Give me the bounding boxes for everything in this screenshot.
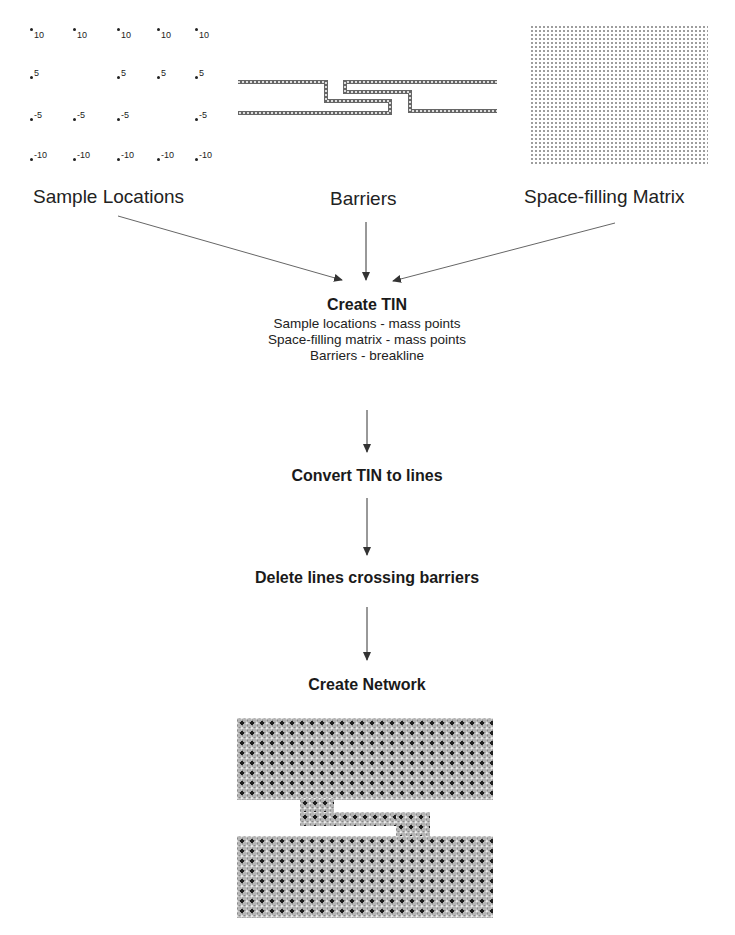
step-detail: Barriers - breakline [217, 348, 517, 364]
arrow-sample-to-tin [118, 216, 342, 280]
arrow-matrix-to-tin [393, 223, 615, 281]
network-upper-block [237, 718, 493, 800]
step-create-network: Create Network [217, 676, 517, 694]
network-lower-block [237, 836, 493, 918]
step-create-tin: Create TIN Sample locations - mass point… [217, 296, 517, 364]
step-detail: Sample locations - mass points [217, 316, 517, 332]
barriers-label: Barriers [330, 188, 397, 210]
space-filling-matrix-grid [530, 25, 708, 165]
step-convert-tin-to-lines: Convert TIN to lines [217, 467, 517, 485]
space-filling-matrix-label: Space-filling Matrix [524, 186, 685, 208]
barriers-drawing [238, 82, 497, 113]
step-detail: Space-filling matrix - mass points [217, 332, 517, 348]
sample-locations-label: Sample Locations [33, 186, 184, 208]
step-title: Create TIN [217, 296, 517, 314]
step-delete-lines-crossing-barriers: Delete lines crossing barriers [217, 569, 517, 587]
